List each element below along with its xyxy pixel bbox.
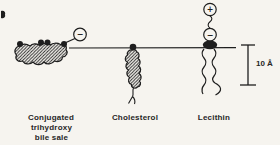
lecithin-inner-charge-sign: − — [207, 31, 214, 40]
captions: Conjugated trihydroxy bile sale Choleste… — [28, 113, 230, 142]
cholesterol-molecule — [125, 44, 141, 104]
hydroxyl-dot — [45, 40, 51, 46]
hydroxyl-dot — [17, 41, 23, 47]
head-group-link — [208, 16, 212, 28]
bile-salt-body — [15, 43, 67, 64]
lecithin-molecule: + − — [202, 3, 221, 95]
bile-salt-label-line3: bile sale — [35, 133, 69, 142]
diagram-canvas: − + − 10 Å Conjugated — [0, 0, 280, 145]
cholesterol-tail-fork — [129, 97, 135, 105]
molecular-interface-diagram: − + − 10 Å Conjugated — [0, 0, 280, 145]
bile-salt-label-line2: trihydroxy — [31, 123, 72, 132]
lecithin-label: Lecithin — [198, 113, 230, 122]
cholesterol-body — [125, 50, 141, 88]
charge-connector-line — [66, 39, 75, 43]
scan-artifact-speck — [1, 11, 5, 19]
fatty-acid-tail-left — [202, 49, 206, 94]
hydroxyl-dot — [38, 40, 44, 46]
cholesterol-tail — [133, 88, 134, 97]
bile-salt-label-line1: Conjugated — [28, 113, 74, 122]
scale-bar-label: 10 Å — [256, 59, 273, 68]
phosphate-head-blob — [203, 40, 217, 49]
lecithin-outer-charge-sign: + — [207, 5, 214, 14]
bile-salt-charge-sign: − — [77, 30, 84, 39]
fatty-acid-tail-right — [212, 49, 220, 95]
scale-bar: 10 Å — [240, 45, 273, 85]
cholesterol-label: Cholesterol — [112, 113, 158, 122]
bile-salt-molecule: − — [15, 28, 86, 64]
